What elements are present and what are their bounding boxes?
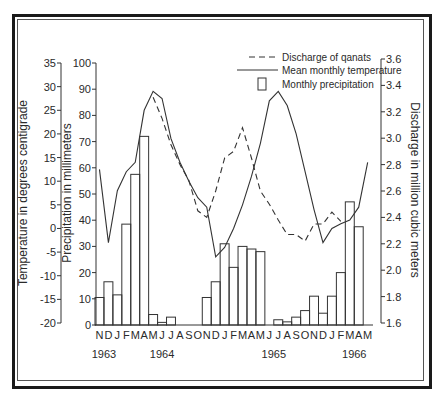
temperature-tick-label: 20: [44, 128, 56, 140]
temperature-tick-label: -15: [40, 293, 56, 305]
month-label: N: [310, 329, 318, 341]
discharge-tick-label: 3.2: [386, 106, 401, 118]
precipitation-bar: [327, 296, 336, 325]
month-label: J: [276, 329, 282, 341]
month-label: A: [284, 329, 292, 341]
month-label: M: [149, 329, 158, 341]
precipitation-bar: [220, 244, 229, 325]
discharge-tick-label: 2.6: [386, 185, 401, 197]
month-label: A: [176, 329, 184, 341]
legend-label-temperature: Mean monthly temperature: [282, 65, 402, 76]
precipitation-tick-label: 0: [85, 319, 91, 331]
month-label: D: [104, 329, 112, 341]
precipitation-axis-label: Precipitation in millimeters: [60, 123, 74, 262]
month-label: O: [194, 329, 203, 341]
month-label: M: [363, 329, 372, 341]
year-label: 1963: [92, 348, 116, 360]
chart-svg: -20-15-10-505101520253035Temperature in …: [0, 0, 439, 398]
month-label: J: [222, 329, 228, 341]
precipitation-bar: [140, 136, 149, 325]
precipitation-tick-label: 100: [73, 57, 91, 69]
temperature-tick-label: 35: [44, 57, 56, 69]
month-label: M: [131, 329, 140, 341]
temperature-tick-label: -5: [46, 246, 56, 258]
month-label: J: [329, 329, 335, 341]
precipitation-bar: [158, 322, 167, 325]
precipitation-bar: [354, 227, 363, 325]
month-label: M: [256, 329, 265, 341]
month-label: F: [230, 329, 237, 341]
temperature-axis-label: Temperature in degrees centigrade: [16, 100, 30, 286]
month-label: F: [337, 329, 344, 341]
precipitation-bar: [292, 317, 301, 325]
temperature-tick-label: -10: [40, 270, 56, 282]
precipitation-bar: [238, 246, 247, 325]
precipitation-tick-label: 10: [79, 293, 91, 305]
precipitation-bar: [211, 282, 220, 325]
discharge-tick-label: 3.0: [386, 132, 401, 144]
precipitation-tick-label: 60: [79, 162, 91, 174]
temperature-tick-label: -20: [40, 317, 56, 329]
precipitation-bar: [247, 249, 256, 325]
discharge-tick-label: 1.8: [386, 291, 401, 303]
precipitation-tick-label: 70: [79, 136, 91, 148]
month-label: M: [238, 329, 247, 341]
month-label: D: [212, 329, 220, 341]
month-label: A: [248, 329, 256, 341]
month-label: O: [301, 329, 310, 341]
precipitation-bar: [310, 296, 319, 325]
precipitation-tick-label: 50: [79, 188, 91, 200]
month-label: F: [123, 329, 130, 341]
legend-bar-icon: [258, 78, 266, 90]
month-label: S: [185, 329, 192, 341]
discharge-tick-label: 2.8: [386, 159, 401, 171]
month-label: M: [345, 329, 354, 341]
year-label: 1964: [150, 348, 174, 360]
legend-label-precipitation: Monthly precipitation: [282, 79, 374, 90]
temperature-tick-label: 25: [44, 104, 56, 116]
precipitation-bar: [336, 273, 345, 325]
precipitation-tick-label: 40: [79, 214, 91, 226]
month-label: J: [267, 329, 273, 341]
discharge-tick-label: 2.0: [386, 264, 401, 276]
month-label: J: [115, 329, 121, 341]
precipitation-bar: [274, 320, 283, 325]
temperature-tick-label: 5: [50, 199, 56, 211]
discharge-tick-label: 2.4: [386, 211, 401, 223]
month-label: J: [159, 329, 165, 341]
discharge-tick-label: 3.6: [386, 53, 401, 65]
month-label: A: [355, 329, 363, 341]
precipitation-bar: [131, 174, 140, 325]
temperature-tick-label: 0: [50, 222, 56, 234]
precipitation-bar: [122, 224, 131, 325]
precipitation-tick-label: 20: [79, 267, 91, 279]
precipitation-tick-label: 90: [79, 83, 91, 95]
legend-label-discharge: Discharge of qanats: [282, 52, 371, 63]
precipitation-bar: [319, 313, 328, 325]
temperature-tick-label: 15: [44, 152, 56, 164]
month-label: N: [95, 329, 103, 341]
precipitation-bar: [229, 267, 238, 325]
month-label: J: [168, 329, 174, 341]
precipitation-bar: [149, 315, 158, 325]
precipitation-tick-label: 80: [79, 109, 91, 121]
discharge-line: [153, 97, 341, 241]
discharge-tick-label: 1.6: [386, 317, 401, 329]
year-label: 1966: [342, 348, 366, 360]
discharge-tick-label: 3.4: [386, 79, 401, 91]
month-label: D: [319, 329, 327, 341]
precipitation-tick-label: 30: [79, 240, 91, 252]
temperature-tick-label: 30: [44, 81, 56, 93]
discharge-tick-label: 2.2: [386, 238, 401, 250]
precipitation-bar: [104, 282, 113, 325]
precipitation-bar: [202, 297, 211, 325]
discharge-axis-label: Discharge in million cubic meters: [408, 102, 422, 277]
precipitation-bar: [167, 317, 176, 325]
precipitation-bar: [256, 252, 265, 325]
precipitation-bar: [301, 311, 310, 325]
year-label: 1965: [262, 348, 286, 360]
month-label: S: [292, 329, 299, 341]
month-label: A: [140, 329, 148, 341]
month-label: N: [203, 329, 211, 341]
precipitation-bar: [113, 295, 122, 325]
